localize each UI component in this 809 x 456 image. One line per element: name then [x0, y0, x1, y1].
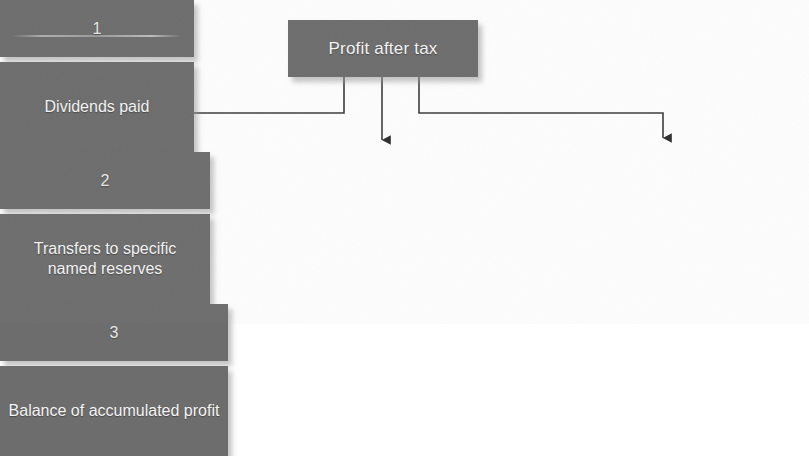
node-dividends-paid-index-cell: 1	[0, 0, 194, 57]
node-balance-accumulated-profit-label: Balance of accumulated profit	[1, 401, 228, 421]
node-transfers-to-reserves-index-cell: 2	[0, 152, 210, 209]
connector-3-path	[419, 77, 663, 138]
node-transfers-to-reserves-index: 2	[101, 172, 110, 190]
node-profit-after-tax[interactable]: Profit after tax	[288, 20, 478, 77]
node-balance-accumulated-profit-body-cell: Balance of accumulated profit	[0, 366, 228, 456]
node-transfers-to-reserves-label: Transfers to specific named reserves	[0, 239, 210, 280]
node-dividends-paid-label: Dividends paid	[37, 97, 158, 117]
node-transfers-to-reserves-body-cell: Transfers to specific named reserves	[0, 214, 210, 304]
node-dividends-paid-body-cell: Dividends paid	[0, 62, 194, 152]
node-balance-accumulated-profit-index: 3	[110, 324, 119, 342]
node-balance-accumulated-profit-index-cell: 3	[0, 304, 228, 361]
node-profit-after-tax-label: Profit after tax	[328, 39, 437, 59]
node-dividends-paid-index: 1	[93, 20, 102, 38]
node-balance-accumulated-profit[interactable]: 3 Balance of accumulated profit	[0, 304, 228, 456]
node-transfers-to-reserves[interactable]: 2 Transfers to specific named reserves	[0, 152, 210, 304]
node-dividends-paid[interactable]: 1 Dividends paid	[0, 0, 194, 152]
